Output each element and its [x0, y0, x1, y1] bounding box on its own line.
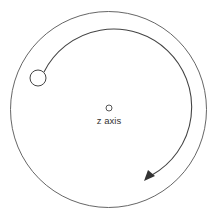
outer-circle	[11, 12, 207, 208]
z-axis-point	[106, 105, 112, 111]
rotation-arc	[44, 29, 192, 175]
arrowhead-icon	[144, 170, 155, 181]
rotation-diagram	[0, 0, 217, 218]
moving-point	[30, 70, 46, 86]
z-axis-label: z axis	[79, 115, 139, 126]
